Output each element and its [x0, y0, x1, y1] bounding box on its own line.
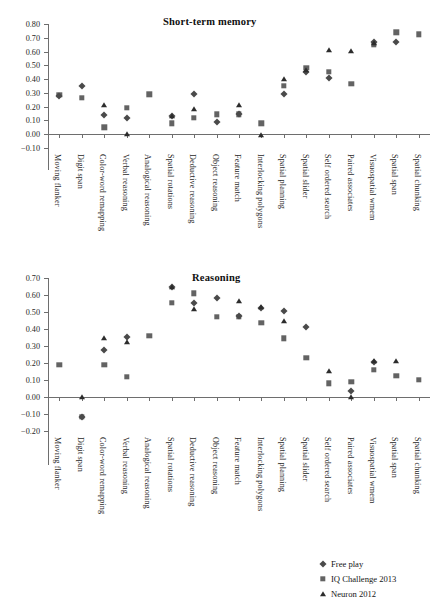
legend-marker-square-icon — [318, 574, 328, 584]
x-axis-tick — [306, 397, 307, 401]
data-point-diamond — [191, 299, 198, 306]
y-axis-tick-label: 0.10 — [8, 376, 40, 385]
data-point-diamond — [213, 118, 220, 125]
data-point-triangle — [191, 106, 197, 111]
x-axis-tick — [149, 397, 150, 401]
x-axis-category-label: Spatial rotations — [166, 437, 175, 492]
chart-panel-short-term-memory: Short-term memory −0.100.000.100.200.300… — [0, 0, 435, 283]
data-point-triangle — [371, 359, 377, 364]
y-axis-tick-label: 0.10 — [8, 116, 40, 125]
data-point-square — [416, 32, 421, 37]
x-axis-tick — [172, 397, 173, 401]
data-point-triangle — [371, 40, 377, 45]
data-point-square — [79, 95, 84, 100]
x-axis-category-label: Deductive reasoning — [188, 437, 197, 506]
x-axis-category-label: Paired associates — [346, 437, 355, 494]
x-axis-tick — [239, 397, 240, 401]
y-axis-tick — [44, 329, 48, 330]
x-axis-tick — [104, 134, 105, 138]
x-axis-category-label: Paired associates — [346, 154, 355, 211]
x-axis-tick — [172, 134, 173, 138]
data-point-triangle — [101, 102, 107, 107]
x-axis-category-label: Visuospatial wmem — [368, 154, 377, 220]
x-axis-category-label: Color-word remapping — [98, 154, 107, 231]
data-point-triangle — [124, 339, 130, 344]
x-axis-category-label: Spatial span — [390, 154, 399, 195]
x-axis-tick — [306, 134, 307, 138]
y-axis-tick — [44, 107, 48, 108]
x-axis-category-label: Moving flanker — [53, 154, 62, 207]
data-point-square — [326, 381, 331, 386]
y-axis-tick — [44, 24, 48, 25]
data-point-triangle — [79, 394, 85, 399]
y-axis-tick — [44, 295, 48, 296]
x-axis-category-label: Spatial span — [390, 437, 399, 478]
data-point-square — [304, 355, 309, 360]
x-axis-category-label: Deductive reasoning — [188, 154, 197, 223]
data-point-triangle — [101, 335, 107, 340]
y-axis-tick — [44, 431, 48, 432]
data-point-triangle — [281, 76, 287, 81]
x-axis-category-label: Spatial slider — [301, 437, 310, 481]
data-point-square — [371, 367, 376, 372]
data-point-square — [169, 120, 174, 125]
y-axis-tick — [44, 120, 48, 121]
data-point-diamond — [280, 308, 287, 315]
data-point-square — [281, 336, 286, 341]
x-axis-category-label: Spatial chunking — [413, 437, 422, 494]
legend-glyph-shape — [320, 576, 325, 581]
y-axis-tick — [44, 79, 48, 80]
x-axis-category-label: Spatial chunking — [413, 154, 422, 211]
y-axis-tick-label: 0.40 — [8, 75, 40, 84]
data-point-square — [281, 83, 286, 88]
x-axis-tick — [59, 397, 60, 401]
y-axis-tick-label: 0.60 — [8, 291, 40, 300]
legend-item-label: Free play — [331, 559, 363, 569]
x-axis-category-label: Interlocking polygons — [256, 154, 265, 228]
y-axis-tick — [44, 65, 48, 66]
data-point-triangle — [303, 67, 309, 72]
x-axis-category-label: Spatial slider — [301, 154, 310, 198]
y-axis-tick — [44, 134, 48, 135]
data-point-diamond — [101, 111, 108, 118]
data-point-square — [57, 362, 62, 367]
data-point-triangle — [326, 47, 332, 52]
x-axis-tick — [104, 397, 105, 401]
data-point-square — [124, 374, 129, 379]
y-axis-tick — [44, 312, 48, 313]
data-point-diamond — [303, 324, 310, 331]
x-axis-tick — [59, 134, 60, 138]
x-axis-tick — [419, 397, 420, 401]
data-point-square — [191, 115, 196, 120]
data-point-triangle — [169, 284, 175, 289]
legend-item: Neuron 2012 — [318, 586, 396, 601]
data-point-square — [146, 92, 151, 97]
y-axis-line — [48, 24, 49, 170]
x-axis-tick — [194, 134, 195, 138]
data-point-triangle — [326, 368, 332, 373]
y-axis-tick-label: 0.70 — [8, 33, 40, 42]
y-axis-tick-label: 0.20 — [8, 102, 40, 111]
chart-title-short-term-memory: Short-term memory — [163, 16, 257, 27]
y-axis-tick — [44, 148, 48, 149]
x-axis-tick — [396, 397, 397, 401]
data-point-square — [394, 30, 399, 35]
data-point-diamond — [191, 91, 198, 98]
x-axis-tick — [239, 134, 240, 138]
x-axis-category-label: Digit span — [76, 437, 85, 472]
x-axis-category-label: Object reasoning — [211, 154, 220, 211]
x-axis-category-label: Color-word remapping — [98, 437, 107, 514]
data-point-square — [191, 291, 196, 296]
x-axis-tick — [351, 134, 352, 138]
y-axis-tick — [44, 380, 48, 381]
x-axis-tick — [194, 397, 195, 401]
chart-legend: Free playIQ Challenge 2013Neuron 2012 — [318, 556, 396, 601]
y-axis-tick-label: 0.00 — [8, 393, 40, 402]
x-axis-category-label: Spatial planning — [278, 154, 287, 209]
x-axis-category-label: Object reasoning — [211, 437, 220, 494]
x-axis-category-label: Self ordered search — [323, 154, 332, 219]
y-axis-tick-label: 0.80 — [8, 20, 40, 29]
data-point-square — [101, 362, 106, 367]
x-axis-tick — [217, 134, 218, 138]
data-point-diamond — [213, 294, 220, 301]
